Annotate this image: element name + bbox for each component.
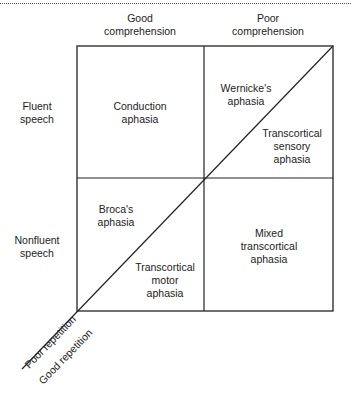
- cell-text: Conduction: [113, 100, 166, 113]
- cell-text: transcortical: [241, 240, 298, 253]
- column-header-line: comprehension: [232, 25, 304, 38]
- cell-text: Wernicke's: [221, 82, 272, 95]
- cell-transcortical-motor-aphasia: Transcortical motor aphasia: [135, 261, 195, 300]
- cell-text: aphasia: [262, 153, 322, 166]
- cell-text: Transcortical: [262, 127, 322, 140]
- column-header-line: Good: [104, 12, 176, 25]
- row-header-nonfluent-speech: Nonfluent speech: [15, 234, 60, 260]
- row-header-line: speech: [20, 113, 54, 126]
- cell-text: aphasia: [135, 287, 195, 300]
- cell-transcortical-sensory-aphasia: Transcortical sensory aphasia: [262, 127, 322, 166]
- cell-text: aphasia: [113, 113, 166, 126]
- cell-brocas-aphasia: Broca's aphasia: [98, 203, 135, 229]
- column-header-poor-comprehension: Poor comprehension: [232, 12, 304, 38]
- cell-mixed-transcortical-aphasia: Mixed transcortical aphasia: [241, 227, 298, 266]
- column-header-line: Poor: [232, 12, 304, 25]
- cell-text: aphasia: [98, 216, 135, 229]
- row-header-line: speech: [15, 247, 60, 260]
- row-header-fluent-speech: Fluent speech: [20, 100, 54, 126]
- cell-conduction-aphasia: Conduction aphasia: [113, 100, 166, 126]
- row-header-line: Fluent: [20, 100, 54, 113]
- cell-text: Transcortical: [135, 261, 195, 274]
- cell-text: Mixed: [241, 227, 298, 240]
- cell-text: aphasia: [241, 253, 298, 266]
- column-header-good-comprehension: Good comprehension: [104, 12, 176, 38]
- cell-wernickes-aphasia: Wernicke's aphasia: [221, 82, 272, 108]
- row-header-line: Nonfluent: [15, 234, 60, 247]
- cell-text: aphasia: [221, 95, 272, 108]
- cell-text: motor: [135, 274, 195, 287]
- column-header-line: comprehension: [104, 25, 176, 38]
- cell-text: sensory: [262, 140, 322, 153]
- cell-text: Broca's: [98, 203, 135, 216]
